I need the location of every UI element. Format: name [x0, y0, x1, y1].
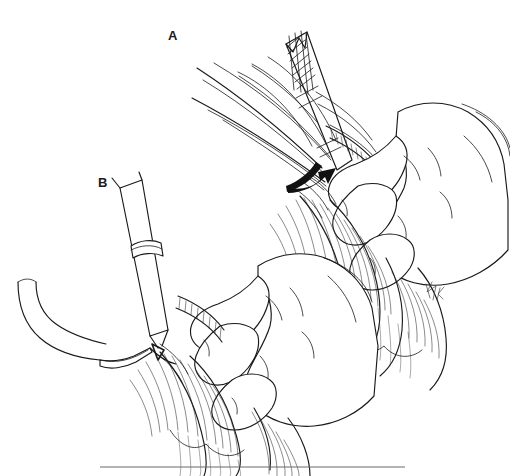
instrument-handle-a: [286, 31, 352, 170]
hand-b: [190, 254, 378, 430]
panel-b-artwork: [18, 172, 378, 476]
incision-b: [150, 344, 176, 364]
curved-probe-b: [18, 279, 152, 368]
panel-label-b: B: [98, 176, 108, 189]
instrument-shaft-b: [112, 172, 168, 348]
panel-label-a: A: [168, 29, 178, 42]
hand-a: [328, 103, 510, 290]
figure-root: A B: [0, 0, 510, 476]
illustration-canvas: [0, 0, 510, 476]
